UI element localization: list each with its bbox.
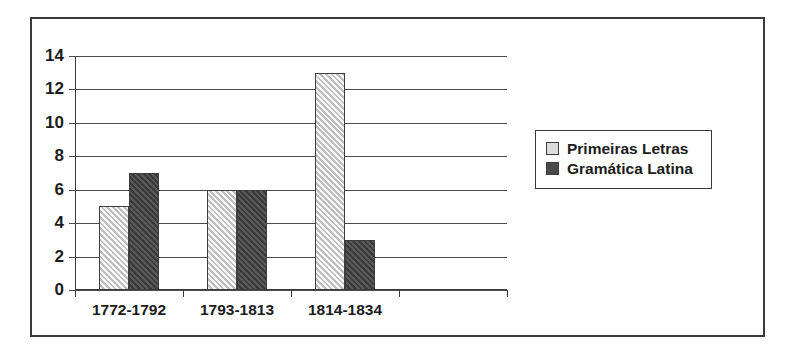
y-tick-mark: [69, 89, 75, 90]
y-tick-mark: [69, 123, 75, 124]
y-tick-label: 10: [45, 113, 64, 133]
y-tick-mark: [69, 156, 75, 157]
gridline: [75, 123, 507, 124]
legend-swatch-light-icon: [546, 142, 559, 155]
bar: [315, 73, 345, 290]
gridline: [75, 89, 507, 90]
bar: [207, 190, 237, 290]
y-tick-label: 4: [55, 213, 64, 233]
x-tick-label: 1793-1813: [200, 301, 274, 319]
x-tick-mark: [75, 290, 76, 297]
y-tick-mark: [69, 257, 75, 258]
x-tick-mark: [183, 290, 184, 297]
x-tick-label: 1814-1834: [308, 301, 382, 319]
x-tick-mark: [399, 290, 400, 297]
y-tick-mark: [69, 190, 75, 191]
y-tick-label: 8: [55, 146, 64, 166]
plot-area: 02468101214 1772-17921793-18131814-1834: [75, 56, 507, 290]
legend-item[interactable]: Primeiras Letras: [546, 140, 701, 158]
x-tick-mark: [507, 290, 508, 297]
y-tick-label: 12: [45, 79, 64, 99]
y-tick-label: 0: [55, 280, 64, 300]
x-tick-mark: [291, 290, 292, 297]
gridline: [75, 56, 507, 57]
bar: [237, 190, 267, 290]
y-tick-mark: [69, 56, 75, 57]
chart-legend: Primeiras LetrasGramática Latina: [535, 130, 712, 189]
x-tick-label: 1772-1792: [92, 301, 166, 319]
y-tick-label: 6: [55, 180, 64, 200]
bar: [129, 173, 159, 290]
y-tick-label: 2: [55, 247, 64, 267]
legend-label: Gramática Latina: [567, 160, 693, 178]
y-axis-line: [75, 56, 76, 290]
gridline: [75, 156, 507, 157]
legend-item[interactable]: Gramática Latina: [546, 160, 701, 178]
bar: [345, 240, 375, 290]
legend-swatch-dark-icon: [546, 162, 559, 175]
bar: [99, 206, 129, 290]
chart-figure: 02468101214 1772-17921793-18131814-1834 …: [30, 17, 765, 337]
y-tick-label: 14: [45, 46, 64, 66]
legend-label: Primeiras Letras: [567, 140, 689, 158]
y-tick-mark: [69, 223, 75, 224]
